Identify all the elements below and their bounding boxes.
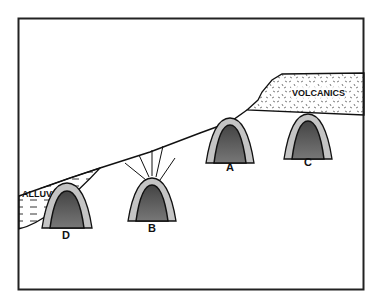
radiating-lines xyxy=(125,146,175,180)
volcanics-layer: VOLCANICS xyxy=(247,73,364,115)
label-d: D xyxy=(62,229,70,241)
label-b: B xyxy=(148,222,156,234)
dome-b xyxy=(128,178,176,221)
label-a: A xyxy=(226,161,234,173)
dome-a xyxy=(206,118,254,163)
dome-c xyxy=(284,114,332,159)
volcanics-label: VOLCANICS xyxy=(292,88,345,98)
label-c: C xyxy=(304,156,312,168)
cross-section-diagram: ALLUVIUM VOLCANICS D B A C xyxy=(0,0,384,306)
